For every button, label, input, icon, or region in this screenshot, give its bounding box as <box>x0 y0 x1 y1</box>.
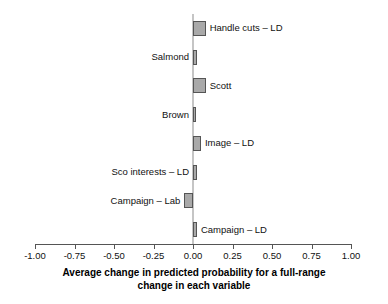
bar-label: Campaign – Lab <box>111 196 181 206</box>
x-axis-tick <box>312 244 313 249</box>
bar-row: Image – LD <box>35 129 351 158</box>
bar-row: Campaign – LD <box>35 215 351 244</box>
x-axis-tick-label: -0.75 <box>64 251 86 261</box>
plot-area: Handle cuts – LDSalmondScottBrownImage –… <box>35 14 351 244</box>
bar-label: Scott <box>210 81 232 91</box>
bar <box>193 50 197 65</box>
x-axis-tick-label: -1.00 <box>24 251 46 261</box>
x-axis-tick <box>193 244 194 249</box>
x-axis-tick-label: 0.75 <box>302 251 321 261</box>
bar-row: Handle cuts – LD <box>35 14 351 43</box>
bar-label: Handle cuts – LD <box>210 24 283 34</box>
bar-row: Campaign – Lab <box>35 187 351 216</box>
x-axis-tick-label: -0.25 <box>143 251 165 261</box>
bar <box>193 107 196 122</box>
bar-label: Brown <box>162 110 189 120</box>
x-axis-tick <box>154 244 155 249</box>
x-axis-tick <box>233 244 234 249</box>
x-axis-tick-label: 1.00 <box>342 251 361 261</box>
bar-label: Sco interests – LD <box>111 167 189 177</box>
x-axis-tick-label: 0.25 <box>223 251 242 261</box>
bar-row: Scott <box>35 72 351 101</box>
bar <box>193 165 197 180</box>
x-axis-title-line-1: Average change in predicted probability … <box>0 266 388 279</box>
x-axis-tick <box>75 244 76 249</box>
bar <box>193 222 197 237</box>
x-axis-tick <box>351 244 352 249</box>
x-axis-tick-label: -0.50 <box>103 251 125 261</box>
bar <box>193 21 206 36</box>
bar-row: Sco interests – LD <box>35 158 351 187</box>
bar-row: Brown <box>35 100 351 129</box>
x-axis-tick <box>114 244 115 249</box>
bar-row: Salmond <box>35 43 351 72</box>
x-axis-tick-label: 0.00 <box>184 251 203 261</box>
bar-label: Image – LD <box>205 139 254 149</box>
bar-label: Campaign – LD <box>201 225 267 235</box>
x-axis-title-line-2: change in each variable <box>0 279 388 292</box>
bar-chart-figure: Handle cuts – LDSalmondScottBrownImage –… <box>0 0 388 304</box>
bar <box>193 78 206 93</box>
x-axis-tick <box>35 244 36 249</box>
bar-label: Salmond <box>152 52 190 62</box>
x-axis-tick <box>272 244 273 249</box>
x-axis-title: Average change in predicted probability … <box>0 266 388 292</box>
bar <box>184 193 193 208</box>
x-axis-tick-label: 0.50 <box>263 251 282 261</box>
x-axis: -1.00-0.75-0.50-0.250.000.250.500.751.00 <box>35 244 351 245</box>
bar <box>193 136 201 151</box>
